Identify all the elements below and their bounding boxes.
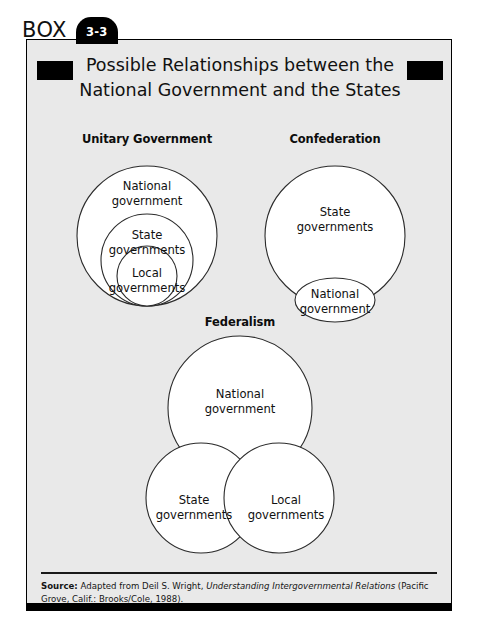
box-number-tab: 3-3 [76, 17, 118, 44]
federalism-state-label-line-1: State [179, 493, 210, 507]
box-label: BOX [22, 20, 67, 42]
box-header: BOX 3-3 [22, 8, 118, 42]
unitary-inner-label-line-2: governments [109, 281, 186, 295]
federalism-local-label-line-2: governments [248, 508, 325, 522]
panel-heading-federalism: Federalism [154, 315, 326, 329]
diagram-unitary-government: National government State governments Lo… [61, 150, 233, 322]
federalism-national-label-line-2: government [205, 402, 276, 416]
federalism-local-label-line-1: Local [271, 493, 301, 507]
source-prefix: Source: [41, 581, 78, 591]
panel-heading-confederation: Confederation [249, 132, 421, 146]
unitary-outer-label-line-1: National [123, 179, 171, 193]
diagram-area: Unitary Government National government S… [27, 40, 453, 612]
frame-bottom-rule [26, 603, 452, 611]
federalism-state-label-line-2: governments [156, 508, 233, 522]
source-divider [41, 572, 437, 574]
confederation-ellipse-label-line-2: government [300, 302, 371, 316]
box-figure-page: BOX 3-3 Possible Relationships between t… [0, 0, 478, 639]
diagram-federalism: National government State governments Lo… [144, 332, 336, 562]
source-work-title: Understanding Intergovernmental Relation… [206, 581, 395, 591]
box-frame: Possible Relationships between the Natio… [26, 39, 452, 611]
panel-heading-unitary: Unitary Government [61, 132, 233, 146]
source-text-before: Adapted from Deil S. Wright, [78, 581, 206, 591]
unitary-outer-label-line-2: government [112, 194, 183, 208]
confederation-outer-label-line-1: State [320, 205, 351, 219]
unitary-middle-label-line-1: State [132, 228, 163, 242]
confederation-outer-label-line-2: governments [297, 220, 374, 234]
confederation-ellipse-label-line-1: National [311, 287, 359, 301]
box-number-label: 3-3 [86, 27, 107, 39]
federalism-national-label-line-1: National [216, 387, 264, 401]
unitary-middle-label-line-2: governments [109, 243, 186, 257]
diagram-confederation: State governments National government [249, 150, 421, 322]
unitary-inner-label-line-1: Local [132, 266, 162, 280]
